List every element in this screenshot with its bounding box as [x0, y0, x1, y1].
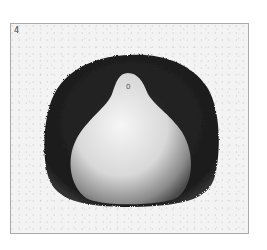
- marker-glyph: 0: [126, 83, 130, 91]
- specimen-illustration: 0: [0, 0, 267, 250]
